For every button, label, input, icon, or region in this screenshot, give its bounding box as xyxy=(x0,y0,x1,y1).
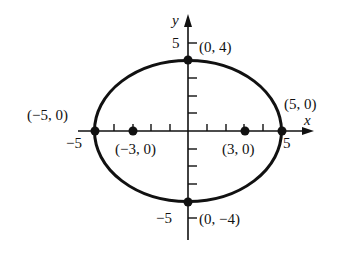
label-neg3-0: (−3, 0) xyxy=(115,141,156,158)
x-axis-label: x xyxy=(303,112,311,128)
y-axis-label: y xyxy=(170,12,179,28)
axes xyxy=(78,22,306,240)
ellipse-graph: y x 5 −5 −5 5 (0, 4) (5, 0) (−5, 0) (−3,… xyxy=(0,0,347,278)
point-0-neg4 xyxy=(184,198,193,207)
x-tick-label-neg5: −5 xyxy=(66,135,82,151)
x-axis-arrow-icon xyxy=(302,127,314,135)
point-3-0 xyxy=(241,127,250,136)
y-tick-label-5: 5 xyxy=(172,35,180,51)
label-0-4: (0, 4) xyxy=(199,39,232,56)
point-neg5-0 xyxy=(91,127,100,136)
point-0-4 xyxy=(184,56,193,65)
label-0-neg4: (0, −4) xyxy=(199,211,240,228)
label-3-0: (3, 0) xyxy=(222,141,255,158)
x-tick-label-5: 5 xyxy=(283,135,291,151)
y-tick-label-neg5: −5 xyxy=(156,210,172,226)
label-neg5-0: (−5, 0) xyxy=(27,107,68,124)
point-neg3-0 xyxy=(129,127,138,136)
y-axis-arrow-icon xyxy=(184,14,192,27)
label-5-0: (5, 0) xyxy=(284,96,317,113)
